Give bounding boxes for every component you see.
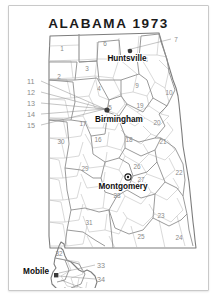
- district-number-28: 28: [113, 192, 121, 199]
- city-label-montgomery: Montgomery: [98, 182, 148, 191]
- huntsville-dot-icon[interactable]: [128, 49, 133, 54]
- district-number-30: 30: [57, 138, 65, 145]
- district-number-12: 12: [27, 88, 35, 97]
- district-number-23: 23: [157, 212, 165, 219]
- district-number-32: 32: [55, 250, 63, 257]
- page-title: ALABAMA 1973: [9, 16, 208, 31]
- map-container[interactable]: 1 2 3 4 5 6 7 8 9 10 16 17 18 19 20 21 2: [9, 30, 208, 288]
- district-number-9: 9: [135, 82, 139, 89]
- screenshot-root: ALABAMA 1973: [0, 0, 216, 295]
- district-number-17: 17: [79, 120, 87, 127]
- district-number-18: 18: [125, 136, 133, 143]
- mobile-square-icon[interactable]: [54, 273, 58, 277]
- district-number-21: 21: [159, 138, 167, 145]
- district-number-22: 22: [175, 169, 183, 176]
- city-label-mobile: Mobile: [23, 267, 49, 276]
- district-number-1: 1: [60, 45, 64, 52]
- district-number-25: 25: [137, 233, 145, 240]
- district-number-15: 15: [27, 121, 35, 130]
- district-number-19: 19: [136, 102, 144, 109]
- district-number-14: 14: [27, 110, 35, 119]
- birmingham-dot-icon[interactable]: [104, 107, 109, 112]
- district-number-2: 2: [57, 73, 61, 80]
- district-number-34: 34: [97, 275, 105, 284]
- district-number-16: 16: [94, 136, 102, 143]
- district-number-7: 7: [174, 36, 178, 43]
- district-number-20: 20: [153, 119, 161, 126]
- district-number-26: 26: [133, 163, 141, 170]
- district-number-3: 3: [85, 65, 89, 72]
- district-number-24: 24: [175, 234, 183, 241]
- city-label-huntsville: Huntsville: [107, 54, 147, 63]
- district-number-11: 11: [27, 77, 34, 86]
- district-number-6: 6: [103, 40, 107, 47]
- district-number-33: 33: [97, 261, 105, 270]
- district-number-13: 13: [27, 99, 35, 108]
- district-number-29: 29: [81, 165, 89, 172]
- city-label-birmingham: Birmingham: [95, 115, 143, 124]
- montgomery-dot-icon: [127, 176, 129, 178]
- district-number-10: 10: [165, 89, 173, 96]
- alabama-map-svg[interactable]: 1 2 3 4 5 6 7 8 9 10 16 17 18 19 20 21 2: [9, 30, 208, 288]
- district-number-4: 4: [97, 85, 101, 92]
- map-page-card: ALABAMA 1973: [8, 5, 209, 291]
- district-number-31: 31: [85, 219, 93, 226]
